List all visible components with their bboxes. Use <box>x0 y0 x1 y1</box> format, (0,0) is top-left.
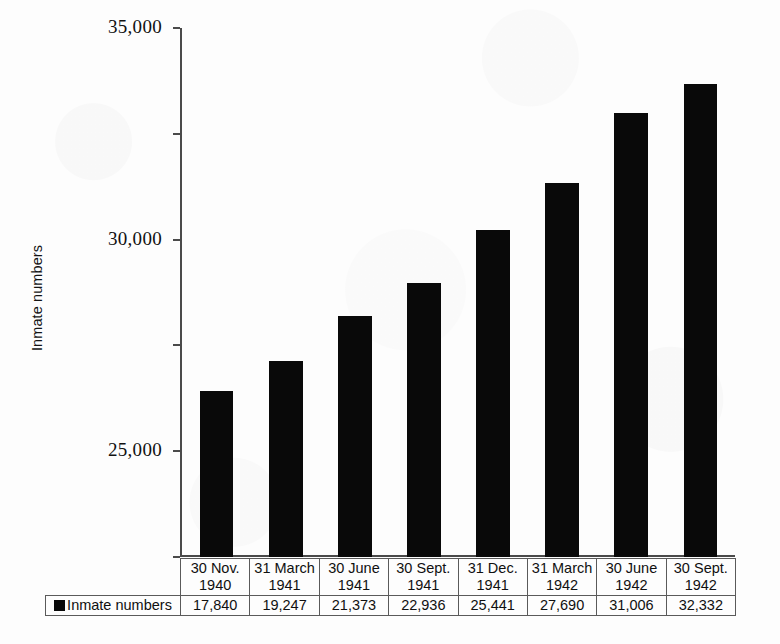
category-cell-line1: 30 Nov. <box>191 560 240 576</box>
bar-slot <box>389 28 458 557</box>
category-cell-line2: 1941 <box>252 577 316 594</box>
y-tick-label: 25,000 <box>108 439 162 461</box>
bar <box>338 316 372 557</box>
data-table: 30 Nov.194031 March194130 June194130 Sep… <box>45 558 736 616</box>
category-cell-line1: 31 March <box>254 560 314 576</box>
category-cell-line2: 1940 <box>183 577 247 594</box>
bar-slot <box>182 28 251 557</box>
bar <box>614 113 648 557</box>
category-cell-line1: 31 March <box>532 560 592 576</box>
category-cell: 30 June1942 <box>597 559 666 596</box>
category-cell-line1: 30 Sept. <box>674 560 728 576</box>
table-row-categories: 30 Nov.194031 March194130 June194130 Sep… <box>46 559 736 596</box>
category-cell-line2: 1941 <box>322 577 386 594</box>
value-cell: 31,006 <box>597 595 666 615</box>
value-cell: 19,247 <box>250 595 319 615</box>
bar-slot <box>459 28 528 557</box>
category-cell: 31 March1942 <box>527 559 596 596</box>
y-tick-mark: 15,000 <box>173 450 180 452</box>
category-cell-line1: 30 June <box>606 560 658 576</box>
value-cell: 25,441 <box>458 595 527 615</box>
bar <box>200 391 234 557</box>
category-cell: 31 March1941 <box>250 559 319 596</box>
category-cell-line1: 30 Sept. <box>396 560 450 576</box>
value-cell: 21,373 <box>319 595 388 615</box>
data-table-wrapper: 30 Nov.194031 March194130 June194130 Sep… <box>45 558 735 616</box>
bar-slot <box>666 28 735 557</box>
category-cell-line1: 31 Dec. <box>468 560 518 576</box>
bar-series <box>182 28 735 557</box>
category-cell: 30 Nov.1940 <box>181 559 250 596</box>
bar-slot <box>528 28 597 557</box>
y-tick-label: 30,000 <box>108 227 162 249</box>
y-tick-label: 35,000 <box>108 16 162 38</box>
category-cell: 30 Sept.1941 <box>389 559 458 596</box>
bar <box>476 230 510 557</box>
category-cell-line2: 1942 <box>669 577 733 594</box>
y-tick-mark: 35,000 <box>173 27 180 29</box>
category-cell: 30 Sept.1942 <box>666 559 735 596</box>
y-axis-title: Inmate numbers <box>29 198 45 398</box>
bar <box>545 183 579 557</box>
legend-label: Inmate numbers <box>67 597 172 613</box>
category-cell: 30 June1941 <box>319 559 388 596</box>
legend-entry: Inmate numbers <box>46 595 181 615</box>
legend-swatch-icon <box>54 600 65 611</box>
category-cell-line2: 1941 <box>461 577 525 594</box>
value-cell: 17,840 <box>181 595 250 615</box>
table-row-values: Inmate numbers 17,84019,24721,37322,9362… <box>46 595 736 615</box>
bar-chart-figure: Inmate numbers 35,00030,00025,00020,0001… <box>0 0 780 644</box>
bar-slot <box>320 28 389 557</box>
bar-slot <box>251 28 320 557</box>
value-cell: 27,690 <box>527 595 596 615</box>
y-tick-mark: 30,000 <box>173 133 180 135</box>
plot-area: 35,00030,00025,00020,00015,00010,000 <box>180 28 735 557</box>
category-cell-line2: 1941 <box>391 577 455 594</box>
bar <box>269 361 303 557</box>
y-tick-mark: 20,000 <box>173 344 180 346</box>
category-cell: 31 Dec.1941 <box>458 559 527 596</box>
categories-row-corner <box>46 559 181 596</box>
bar <box>407 283 441 557</box>
bar <box>684 84 718 557</box>
value-cell: 32,332 <box>666 595 735 615</box>
y-tick-mark: 25,000 <box>173 239 180 241</box>
category-cell-line2: 1942 <box>530 577 594 594</box>
category-cell-line2: 1942 <box>599 577 663 594</box>
category-cell-line1: 30 June <box>328 560 380 576</box>
bar-slot <box>597 28 666 557</box>
value-cell: 22,936 <box>389 595 458 615</box>
